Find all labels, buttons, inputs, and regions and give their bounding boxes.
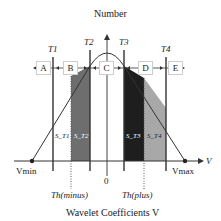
- region-e: E: [168, 61, 183, 75]
- region-b: B: [63, 61, 78, 75]
- th-plus-label: Th(plus): [122, 190, 153, 200]
- y-axis-arrow: [104, 34, 110, 40]
- diagram-graphics: [0, 0, 221, 221]
- x-axis-title: Wavelet Coefficients V: [66, 208, 159, 218]
- area-s-t2: [71, 66, 90, 161]
- th-minus-label: Th(minus): [51, 190, 88, 200]
- t4-label: T4: [161, 44, 171, 54]
- v-axis-label: V: [206, 156, 212, 166]
- t3-label: T3: [119, 37, 129, 47]
- area-label-s-t1: S_T1: [55, 131, 69, 141]
- vmin-label: Vmin: [16, 166, 37, 176]
- t1-label: T1: [48, 44, 58, 54]
- y-axis-title: Number: [94, 9, 127, 19]
- vmax-point: [183, 159, 187, 163]
- area-s-t4: [144, 78, 166, 161]
- vmin-point: [30, 159, 34, 163]
- area-s-t3: [124, 66, 144, 161]
- x-axis-arrow: [198, 158, 204, 164]
- area-label-s-t4: S_T4: [147, 131, 161, 141]
- region-a: A: [36, 61, 51, 75]
- t2-label: T2: [84, 37, 94, 47]
- area-label-s-t3: S_T3: [126, 131, 140, 141]
- region-d: D: [138, 61, 153, 75]
- area-label-s-t2: S_T2: [74, 131, 88, 141]
- region-c: C: [99, 61, 114, 75]
- vmax-label: Vmax: [172, 166, 194, 176]
- origin-label: 0: [104, 176, 109, 186]
